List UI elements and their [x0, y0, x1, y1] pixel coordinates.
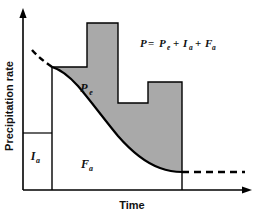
- x-axis-title: Time: [119, 199, 144, 211]
- equation-equals-sign: =: [148, 37, 154, 49]
- equation-term-ia-subscript: a: [189, 43, 193, 52]
- y-axis-title: Precipitation rate: [3, 61, 15, 151]
- axis-arrow-right-icon: [242, 186, 252, 193]
- axis-arrow-up-icon: [19, 8, 26, 18]
- region-label-ia: I a: [30, 149, 40, 165]
- equation-annotation: P = P e + I a + F a: [140, 37, 216, 52]
- equation-plus-sign-2: +: [195, 37, 201, 49]
- equation-lhs: P: [140, 37, 147, 49]
- region-label-pe-symbol: P: [80, 81, 88, 95]
- region-label-fa-subscript: a: [89, 164, 93, 173]
- region-label-fa: F a: [80, 157, 93, 173]
- equation-term-pe-symbol: P: [159, 37, 166, 49]
- equation-plus-sign-1: +: [173, 37, 179, 49]
- equation-term-pe-subscript: e: [167, 43, 171, 52]
- infiltration-curve-dashed-start: [32, 50, 52, 67]
- precipitation-partition-chart: Precipitation rate Time P e I a F a P = …: [0, 0, 263, 216]
- figure-container: Precipitation rate Time P e I a F a P = …: [0, 0, 263, 216]
- region-label-fa-symbol: F: [80, 157, 89, 171]
- equation-term-ia-symbol: I: [182, 37, 188, 49]
- region-label-pe-subscript: e: [89, 88, 93, 97]
- equation-term-fa-subscript: a: [212, 43, 216, 52]
- region-label-ia-subscript: a: [36, 156, 40, 165]
